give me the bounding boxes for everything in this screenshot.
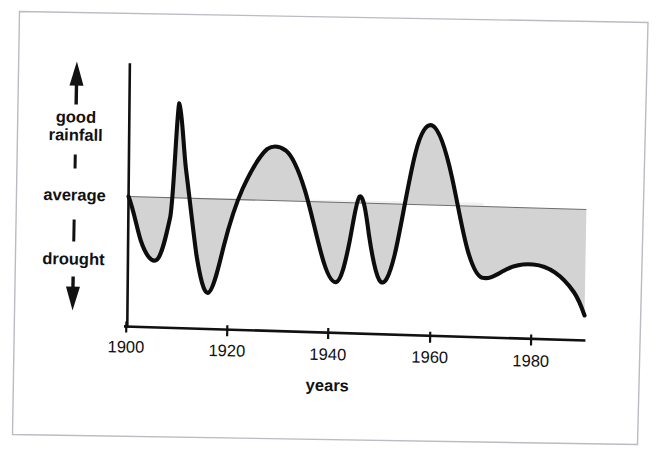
y-axis-line	[125, 64, 132, 326]
x-tick-label-1920: 1920	[208, 341, 245, 360]
y-axis-scale-annotations: good rainfall average drought	[41, 61, 108, 311]
arrow-up-icon	[69, 61, 84, 104]
x-axis-line	[125, 326, 584, 340]
scanned-page: 1900 1920 1940 1960 1980 years good	[0, 0, 658, 461]
chart-figure: 1900 1920 1940 1960 1980 years good	[0, 0, 658, 461]
label-good-rainfall-line1: good	[56, 107, 97, 126]
x-tick-label-1980: 1980	[512, 351, 549, 370]
arrow-down-icon	[66, 276, 81, 310]
x-axis-title: years	[306, 376, 349, 395]
label-drought: drought	[42, 249, 105, 268]
label-average: average	[43, 185, 106, 204]
chart-plot-group: 1900 1920 1940 1960 1980 years good	[40, 61, 589, 398]
rainfall-chart-svg: 1900 1920 1940 1960 1980 years good	[0, 0, 658, 461]
x-axis-tick-labels: 1900 1920 1940 1960 1980	[107, 337, 549, 370]
label-good-rainfall-line2: rainfall	[48, 125, 102, 144]
x-tick-label-1900: 1900	[107, 337, 144, 356]
x-tick-label-1960: 1960	[411, 347, 448, 366]
x-tick-label-1940: 1940	[309, 345, 346, 364]
x-axis-ticks	[126, 321, 531, 345]
